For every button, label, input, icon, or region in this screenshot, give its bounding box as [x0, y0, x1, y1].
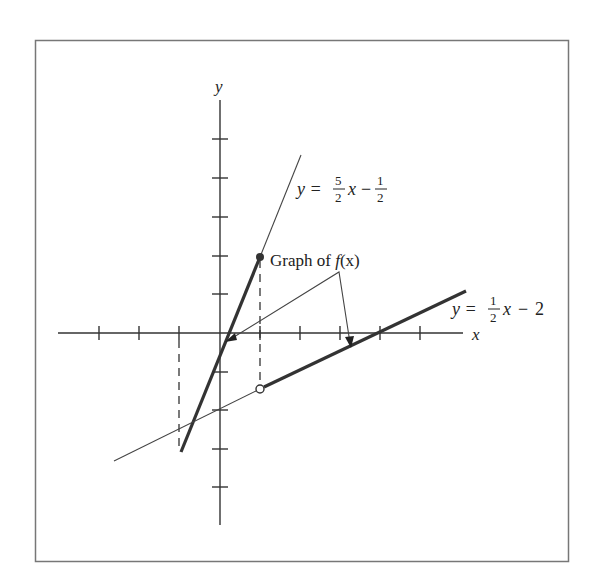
- svg-text:2: 2: [377, 190, 384, 205]
- line-1-steep: [181, 155, 301, 452]
- y-axis: y: [212, 77, 228, 525]
- svg-text:1: 1: [377, 173, 384, 188]
- svg-text:5: 5: [335, 173, 342, 188]
- figure-frame: [36, 41, 569, 562]
- svg-text:Graph of f(x): Graph of f(x): [270, 251, 360, 270]
- x-axis: x: [58, 325, 480, 344]
- svg-text:−: −: [518, 299, 528, 319]
- equation-label-line-1: y = 5 2 x − 1 2: [295, 173, 387, 205]
- svg-text:y =: y =: [450, 299, 477, 319]
- svg-text:x: x: [347, 179, 356, 199]
- svg-text:2: 2: [335, 190, 342, 205]
- x-axis-label: x: [471, 325, 480, 344]
- open-endpoint-circle: [256, 385, 264, 393]
- svg-text:1: 1: [490, 293, 497, 308]
- equation-label-line-2: y = 1 2 x − 2: [450, 293, 544, 325]
- line-1-thin-extension: [260, 155, 301, 257]
- piecewise-function-diagram: x y y = 5 2 x: [0, 0, 592, 588]
- svg-text:x: x: [502, 299, 511, 319]
- svg-text:2: 2: [535, 299, 544, 319]
- svg-text:y =: y =: [295, 179, 322, 199]
- line-2-shallow: [114, 291, 466, 461]
- svg-text:2: 2: [490, 310, 497, 325]
- line-2-thin-extension: [114, 391, 256, 461]
- y-axis-label: y: [213, 77, 223, 96]
- line-2-thick-segment: [264, 291, 466, 387]
- svg-text:−: −: [361, 179, 371, 199]
- filled-endpoint-dot: [256, 253, 264, 261]
